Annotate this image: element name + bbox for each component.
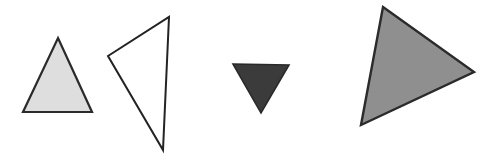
image-canvas [0,0,498,163]
triangles-svg [0,0,498,163]
